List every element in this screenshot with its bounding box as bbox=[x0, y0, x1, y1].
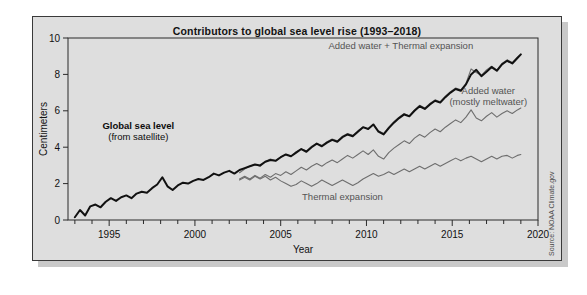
series-line-added-water-mostly-meltwater bbox=[240, 108, 521, 179]
x-axis-title: Year bbox=[293, 244, 314, 255]
x-tick-label: 2010 bbox=[355, 229, 378, 240]
annot-thermal-expansion: Thermal expansion bbox=[302, 191, 383, 202]
annot-added-water-thermal: Added water + Thermal expansion bbox=[328, 40, 473, 51]
source-credit: Source: NOAA Climate.gov bbox=[545, 146, 559, 256]
series-line-thermal-expansion bbox=[240, 154, 521, 186]
x-tick-label: 2005 bbox=[270, 229, 293, 240]
y-axis-title: Centimeters bbox=[38, 102, 49, 156]
y-tick-label: 6 bbox=[54, 105, 60, 116]
source-credit-text: Source: NOAA Climate.gov bbox=[548, 172, 555, 256]
annot-global-sea-level: Global sea level(from satellite) bbox=[102, 120, 174, 142]
x-tick-label: 1995 bbox=[98, 229, 121, 240]
annot-added-water-thermal-line-1: Added water + Thermal expansion bbox=[328, 40, 473, 51]
annot-thermal-expansion-line-1: Thermal expansion bbox=[302, 191, 383, 202]
annot-global-sea-level-line-2: (from satellite) bbox=[108, 131, 168, 142]
y-tick-label: 8 bbox=[54, 69, 60, 80]
chart-figure: Contributors to global sea level rise (1… bbox=[32, 16, 562, 261]
annot-added-water-line-2: (mostly meltwater) bbox=[449, 96, 527, 107]
y-tick-label: 2 bbox=[54, 178, 60, 189]
annot-global-sea-level-line-1: Global sea level bbox=[102, 120, 174, 131]
y-tick-label: 0 bbox=[54, 215, 60, 226]
y-tick-label: 4 bbox=[54, 142, 60, 153]
y-tick-label: 10 bbox=[49, 33, 61, 44]
screenshot-stage: Contributors to global sea level rise (1… bbox=[0, 0, 587, 295]
chart-plot-area: 0246810199520002005201020152020YearCenti… bbox=[33, 17, 561, 260]
annot-added-water: Added water(mostly meltwater) bbox=[449, 85, 527, 107]
annot-added-water-line-1: Added water bbox=[462, 85, 515, 96]
x-tick-label: 2000 bbox=[184, 229, 207, 240]
x-tick-label: 2015 bbox=[441, 229, 464, 240]
